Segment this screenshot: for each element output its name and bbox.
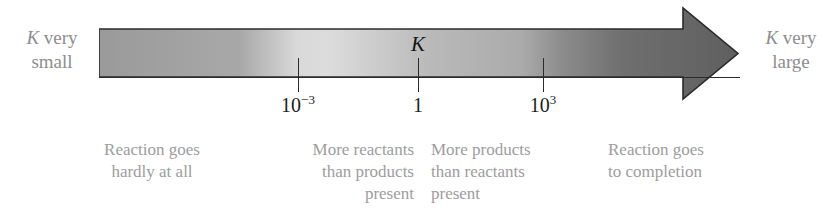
left-label-word2: small	[31, 51, 72, 72]
k-marker-label: K	[388, 33, 448, 55]
axis-baseline	[99, 77, 740, 78]
caption-0-line-1: hardly at all	[62, 161, 242, 183]
tick-label-2: 103	[498, 93, 588, 117]
tick-label-1: 1	[373, 93, 463, 117]
tick-mark-upper-0	[298, 58, 299, 77]
tick-label-exponent-2: 3	[550, 92, 557, 107]
caption-0-line-0: Reaction goes	[62, 139, 242, 161]
caption-3-line-0: Reaction goes	[608, 139, 808, 161]
caption-2-line-2: present	[431, 183, 593, 205]
caption-2-line-1: than reactants	[431, 161, 593, 183]
tick-mark-upper-2	[543, 58, 544, 77]
caption-1-line-0: More reactants	[252, 139, 414, 161]
caption-region-2: More productsthan reactantspresent	[431, 139, 593, 205]
tick-label-0: 10−3	[253, 93, 343, 117]
right-label-word: very	[783, 27, 817, 48]
tick-label-exponent-0: −3	[301, 92, 315, 107]
equilibrium-constant-scale-figure: K very small K very large	[0, 0, 837, 212]
left-endpoint-label: K very small	[8, 26, 96, 74]
left-label-word: very	[44, 27, 78, 48]
caption-region-3: Reaction goesto completion	[608, 139, 808, 183]
caption-1-line-2: present	[252, 183, 414, 205]
right-endpoint-label: K very large	[748, 26, 834, 74]
tick-mark-upper-1	[418, 58, 419, 77]
tick-mark-lower-0	[298, 78, 299, 92]
caption-2-line-0: More products	[431, 139, 593, 161]
caption-region-1: More reactantsthan productspresent	[252, 139, 414, 205]
caption-1-line-1: than products	[252, 161, 414, 183]
tick-mark-lower-1	[418, 78, 419, 92]
caption-region-0: Reaction goeshardly at all	[62, 139, 242, 183]
tick-mark-lower-2	[543, 78, 544, 92]
right-k-symbol: K	[765, 27, 778, 48]
right-label-word2: large	[772, 51, 810, 72]
caption-3-line-1: to completion	[608, 161, 808, 183]
left-k-symbol: K	[26, 27, 39, 48]
